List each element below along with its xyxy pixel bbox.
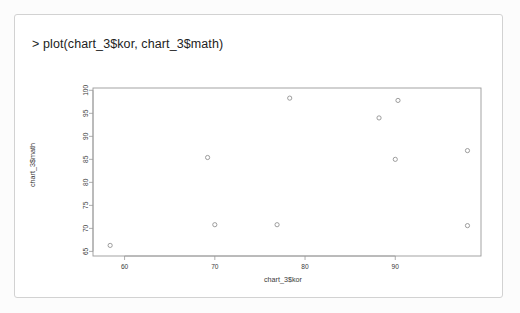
y-tick-label: 95 xyxy=(83,109,90,117)
data-point xyxy=(396,98,400,102)
y-tick-label: 90 xyxy=(83,132,90,140)
data-point xyxy=(465,148,469,152)
x-tick-label: 70 xyxy=(211,263,219,270)
plot-svg: 65707580859095100 60708090 chart_3$math … xyxy=(15,60,504,299)
x-tick-label: 60 xyxy=(121,263,129,270)
y-tick-label: 65 xyxy=(83,247,90,255)
data-point xyxy=(275,223,279,227)
plot-frame xyxy=(93,88,481,256)
y-tick-label: 100 xyxy=(83,84,90,95)
data-point xyxy=(288,96,292,100)
y-tick-label: 75 xyxy=(83,201,90,209)
console-command-line: > plot(chart_3$kor, chart_3$math) xyxy=(32,37,223,51)
y-tick-label: 70 xyxy=(83,224,90,232)
data-point xyxy=(213,223,217,227)
data-point xyxy=(108,243,112,247)
data-point xyxy=(393,157,397,161)
y-tick-label: 85 xyxy=(83,155,90,163)
y-axis-tick-group: 65707580859095100 xyxy=(83,84,94,255)
image-panel: > plot(chart_3$kor, chart_3$math) 657075… xyxy=(14,14,503,298)
x-axis-title: chart_3$kor xyxy=(264,275,303,284)
data-point xyxy=(377,116,381,120)
screenshot-canvas: > plot(chart_3$kor, chart_3$math) 657075… xyxy=(0,0,520,313)
x-tick-label: 90 xyxy=(392,263,400,270)
y-axis-title: chart_3$math xyxy=(28,143,37,187)
scatter-plot: 65707580859095100 60708090 chart_3$math … xyxy=(15,60,504,299)
y-tick-label: 80 xyxy=(83,178,90,186)
data-point xyxy=(205,155,209,159)
x-axis-tick-group: 60708090 xyxy=(121,256,399,270)
x-tick-label: 80 xyxy=(301,263,309,270)
data-point xyxy=(465,224,469,228)
data-point-group xyxy=(108,96,470,247)
